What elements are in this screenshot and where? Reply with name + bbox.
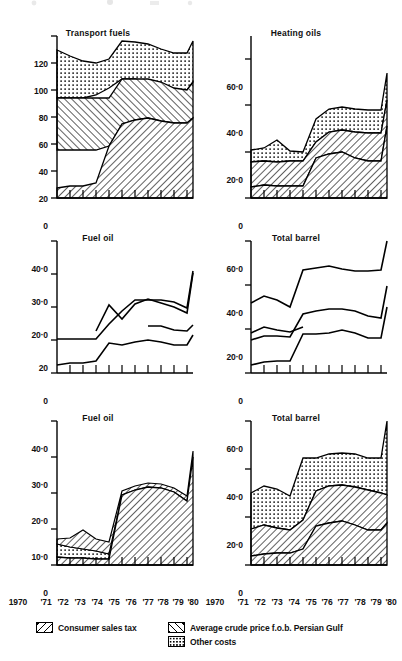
chart-total-barrel-stacked <box>201 413 402 593</box>
panel-title-total-barrel-lines: Total barrel <box>211 233 381 243</box>
fwd-hatch-swatch-icon <box>168 622 185 633</box>
line-total <box>251 241 387 307</box>
panel-title-heating-oils: Heating oils <box>211 28 381 38</box>
ytick-fueloilstack-20: 20·0 <box>6 516 48 526</box>
panel-transport-fuels: Transport fuels <box>0 28 201 218</box>
chart-fuel-oil-lines <box>0 233 201 398</box>
xtick-78: '78 <box>354 597 365 607</box>
legend-label-consumer-sales-tax: Consumer sales tax <box>58 623 137 633</box>
line-tax <box>251 286 387 340</box>
ytick-transport-20: 20 <box>10 194 48 204</box>
ytick-fueloilline-0: 0 <box>6 396 48 406</box>
chart-heating-oils <box>201 28 402 218</box>
ytick-transport-60: 60 <box>10 140 48 150</box>
x-axis-ticks <box>264 365 381 373</box>
panel-title-transport-fuels: Transport fuels <box>18 28 178 38</box>
ytick-fueloilstack-10: 10·0 <box>6 552 48 562</box>
ytick-fueloilline-10: 20 <box>6 363 48 373</box>
xtick-1970: 1970 <box>206 597 225 607</box>
ytick-totalline-20: 20·0 <box>201 352 243 362</box>
panel-heating-oils: Heating oils <box>201 28 402 218</box>
xtick-79: '79 <box>370 597 381 607</box>
back-hatch-swatch-icon <box>36 622 53 633</box>
legend-column-right: Average crude price f.o.b. Persian Gulf … <box>168 622 343 650</box>
xtick-77: '77 <box>337 597 348 607</box>
xtick-80: '80 <box>385 597 396 607</box>
xtick-71: '71 <box>40 597 51 607</box>
y-axis-ticks <box>245 59 251 198</box>
xtick-75: '75 <box>108 597 119 607</box>
ytick-totalstack-40: 40·0 <box>201 492 243 502</box>
dots-swatch-icon <box>168 636 185 647</box>
legend-column-left: Consumer sales tax <box>36 622 137 636</box>
ytick-heating-60: 60·0 <box>201 82 243 92</box>
ytick-transport-100: 100 <box>10 86 48 96</box>
y-axis-ticks <box>51 36 57 198</box>
xtick-78: '78 <box>157 597 168 607</box>
chart-transport-fuels <box>0 28 201 218</box>
ytick-transport-0: 0 <box>10 221 48 231</box>
legend-label-other-costs: Other costs <box>190 637 236 647</box>
xtick-1970: 1970 <box>9 597 28 607</box>
chart-fuel-oil-stacked <box>0 413 201 593</box>
ytick-heating-0: 0 <box>201 221 243 231</box>
x-axis-ticks <box>70 365 187 373</box>
ytick-totalline-60: 60·0 <box>201 264 243 274</box>
xtick-76: '76 <box>321 597 332 607</box>
xtick-71: '71 <box>237 597 248 607</box>
ytick-fueloilstack-30: 30·0 <box>6 480 48 490</box>
ytick-fueloilstack-40: 40·0 <box>6 444 48 454</box>
xtick-74: '74 <box>91 597 102 607</box>
ytick-heating-40: 40·0 <box>201 128 243 138</box>
xtick-73: '73 <box>271 597 282 607</box>
ytick-transport-80: 80 <box>10 113 48 123</box>
ytick-fueloilline-40: 40·0 <box>6 264 48 274</box>
scan-artifact-strip <box>0 0 402 14</box>
ytick-fueloilline-30: 30·0 <box>6 297 48 307</box>
panel-total-barrel-lines: Total barrel 60·0 40·0 20·0 0 <box>201 233 402 398</box>
xtick-72: '72 <box>254 597 265 607</box>
y-axis-ticks <box>245 241 251 373</box>
xtick-76: '76 <box>125 597 136 607</box>
ytick-totalline-0: 0 <box>201 396 243 406</box>
xtick-73: '73 <box>74 597 85 607</box>
ytick-totalstack-60: 60·0 <box>201 444 243 454</box>
ytick-totalstack-20: 20·0 <box>201 540 243 550</box>
legend-item-other-costs: Other costs <box>168 636 343 647</box>
panel-title-fuel-oil-stacked: Fuel oil <box>18 413 178 423</box>
panel-total-barrel-stacked: Total barrel <box>201 413 402 593</box>
y-axis-ticks <box>245 421 251 565</box>
panel-fuel-oil-lines: Fuel oil 40·0 30·0 20·0 20 <box>0 233 201 398</box>
xtick-74: '74 <box>288 597 299 607</box>
xtick-79: '79 <box>172 597 183 607</box>
panel-fuel-oil-stacked: Fuel oil <box>0 413 201 593</box>
xtick-77: '77 <box>142 597 153 607</box>
legend-label-average-crude-price: Average crude price f.o.b. Persian Gulf <box>190 623 343 633</box>
y-axis-ticks <box>51 241 57 373</box>
ytick-transport-40: 40 <box>10 167 48 177</box>
ytick-fueloilline-20: 20·0 <box>6 330 48 340</box>
ytick-heating-20: 20·0 <box>201 175 243 185</box>
xtick-80: '80 <box>187 597 198 607</box>
legend-item-average-crude-price: Average crude price f.o.b. Persian Gulf <box>168 622 343 633</box>
legend-item-consumer-sales-tax: Consumer sales tax <box>36 622 137 633</box>
xtick-75: '75 <box>305 597 316 607</box>
figure-root: Transport fuels <box>0 0 402 661</box>
line-other-costs <box>148 325 193 331</box>
ytick-transport-120: 120 <box>10 59 48 69</box>
panel-title-total-barrel-stacked: Total barrel <box>211 413 381 423</box>
y-axis-ticks <box>51 421 57 565</box>
ytick-totalline-40: 40·0 <box>201 308 243 318</box>
xtick-72: '72 <box>57 597 68 607</box>
panel-title-fuel-oil-lines: Fuel oil <box>18 233 178 243</box>
